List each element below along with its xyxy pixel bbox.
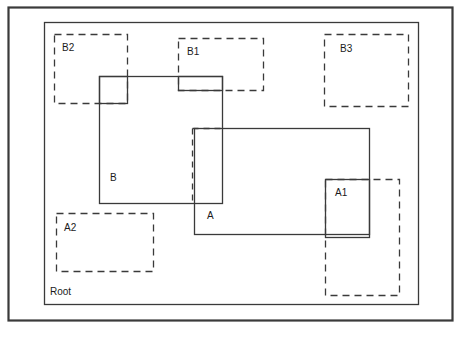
box-b3 [325, 35, 409, 107]
overlap-b-b2 [100, 77, 128, 104]
box-a1 [326, 180, 370, 238]
overlap-b-b1 [179, 77, 223, 91]
box-b3-label: B3 [340, 43, 353, 54]
outer-frame [9, 8, 453, 321]
rectangle-containment-diagram: RootB2B1B3A2BAA1 [0, 0, 467, 337]
box-b1-label: B1 [187, 46, 200, 57]
root-box [45, 23, 419, 305]
box-b-label: B [110, 172, 117, 183]
box-a1-label: A1 [335, 187, 348, 198]
box-a-label: A [207, 210, 214, 221]
box-a2-label: A2 [64, 222, 77, 233]
box-b [100, 77, 223, 204]
box-a [195, 129, 370, 235]
box-b2-label: B2 [62, 42, 75, 53]
root-label: Root [50, 286, 71, 297]
diagram-canvas: RootB2B1B3A2BAA1 [0, 0, 467, 337]
